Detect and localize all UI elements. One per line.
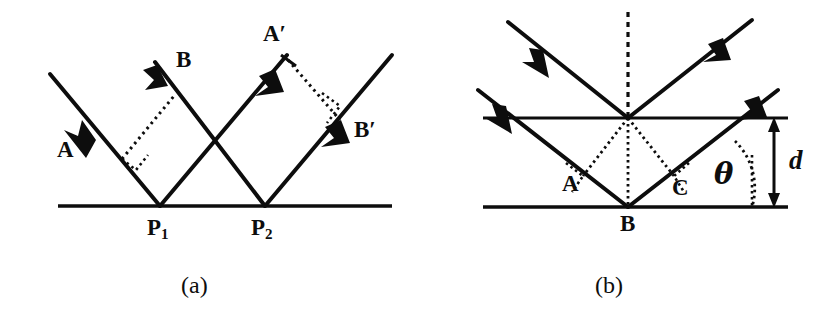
label-reflected-ray-a-prime: A′	[263, 22, 286, 45]
panel-b-segment-to-foot-a	[583, 118, 628, 176]
label-foot-c: C	[672, 176, 689, 199]
caption-panel-a: (a)	[181, 272, 208, 299]
panel-a-arrow-incident-b	[143, 65, 168, 90]
label-point-p2: P2	[251, 216, 273, 242]
label-incident-ray-b: B	[176, 48, 191, 71]
panel-b-geometry	[478, 12, 788, 208]
panel-a-wavefront-incident	[122, 96, 174, 159]
caption-panel-b: (b)	[595, 272, 623, 299]
label-foot-a: A	[562, 172, 579, 195]
panel-a-incident-ray-b	[155, 62, 265, 206]
panel-a-wavefront-reflected	[288, 60, 340, 120]
diagram-svg	[0, 0, 829, 320]
label-angle-theta: θ	[714, 160, 733, 189]
label-spacing-d: d	[789, 147, 803, 174]
label-point-p1: P1	[147, 216, 169, 242]
panel-a-arrow-reflected-a-prime	[255, 69, 284, 96]
panel-b-incident-ray-upper	[508, 22, 628, 118]
panel-b-arrow-incident-lower	[485, 104, 512, 134]
panel-b-reflected-ray-upper	[628, 20, 752, 118]
label-point-p1-subscript: 1	[161, 226, 169, 242]
label-point-p1-base: P	[147, 215, 161, 240]
panel-a-geometry	[50, 55, 392, 206]
label-incident-ray-a: A	[57, 138, 74, 161]
label-reflected-ray-b-prime: B′	[354, 118, 376, 141]
panel-b-segment-to-foot-c	[628, 118, 674, 176]
label-point-p2-subscript: 2	[265, 226, 273, 242]
figure-root: A B A′ B′ P1 P2 (a) A B C θ d (b)	[0, 0, 829, 320]
label-scatter-point-b: B	[620, 212, 635, 235]
label-point-p2-base: P	[251, 215, 265, 240]
